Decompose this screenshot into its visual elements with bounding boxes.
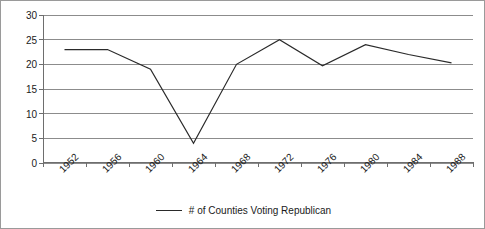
y-axis-tick	[39, 113, 43, 114]
y-axis-tick-label: 30	[26, 10, 37, 21]
y-axis-tick-label: 20	[26, 59, 37, 70]
chart-legend: # of Counties Voting Republican	[1, 199, 485, 221]
y-axis-tick-label: 5	[31, 133, 37, 144]
y-axis-tick-label: 0	[31, 158, 37, 169]
y-axis-tick	[39, 89, 43, 90]
x-axis-tick-labels: 1952195619601964196819721976198019841988	[43, 163, 473, 199]
chart-figure: 051015202530 195219561960196419681972197…	[0, 0, 485, 229]
series-polyline	[65, 40, 452, 144]
y-axis-tick-label: 25	[26, 34, 37, 45]
y-axis-tick-label: 15	[26, 84, 37, 95]
x-axis-tick	[473, 162, 474, 167]
y-axis-tick	[39, 64, 43, 65]
series-line-chart	[43, 15, 473, 163]
legend-line-swatch-icon	[156, 210, 182, 211]
legend-entry-label: # of Counties Voting Republican	[189, 205, 331, 216]
plot-area	[43, 15, 473, 163]
y-axis-tick	[39, 138, 43, 139]
y-axis-labels: 051015202530	[1, 15, 37, 163]
y-axis-tick	[39, 15, 43, 16]
y-axis-tick	[39, 39, 43, 40]
y-axis-tick-label: 10	[26, 108, 37, 119]
